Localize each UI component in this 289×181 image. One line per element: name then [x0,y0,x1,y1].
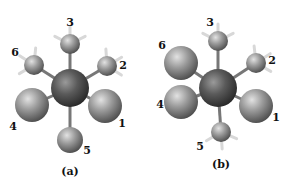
panel-caption: (b) [212,158,230,171]
ligand-atom-2 [97,56,117,76]
position-label-6: 6 [11,46,19,59]
ligand-atom-1 [239,89,273,123]
ligand-atom-6 [24,55,44,75]
panel-b-structure: 123456(b) [156,16,280,171]
ligand-atom-3 [208,31,228,51]
ligand-atom-3 [60,34,80,54]
position-label-2: 2 [268,54,276,67]
central-metal-atom [199,69,237,107]
ligand-atom-2 [246,53,266,73]
octahedral-complexes-diagram: 123456(a) 123456(b) [0,0,289,181]
position-label-6: 6 [158,39,166,52]
panel-a-structure: 123456(a) [9,16,127,178]
panel-caption: (a) [61,165,79,178]
position-label-1: 1 [272,111,280,124]
position-label-3: 3 [206,16,214,29]
position-label-5: 5 [196,140,204,153]
position-label-2: 2 [119,59,127,72]
position-label-4: 4 [156,98,164,111]
position-label-5: 5 [83,144,91,157]
central-metal-atom [51,69,89,107]
ligand-atom-4 [164,85,198,119]
ligand-atom-5 [57,127,83,153]
position-label-4: 4 [9,120,17,133]
ligand-atom-4 [15,88,49,122]
ligand-atom-6 [164,46,198,80]
ligand-atom-1 [88,89,122,123]
position-label-1: 1 [118,117,126,130]
ligand-atom-5 [211,122,231,142]
position-label-3: 3 [66,16,74,29]
